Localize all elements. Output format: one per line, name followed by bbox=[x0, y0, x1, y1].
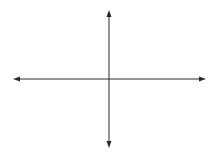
arrow-right-icon bbox=[199, 77, 206, 82]
axes-svg bbox=[0, 0, 214, 153]
arrow-up-icon bbox=[107, 10, 112, 17]
arrow-down-icon bbox=[107, 141, 112, 148]
coordinate-plane bbox=[0, 0, 214, 153]
arrow-left-icon bbox=[13, 77, 20, 82]
